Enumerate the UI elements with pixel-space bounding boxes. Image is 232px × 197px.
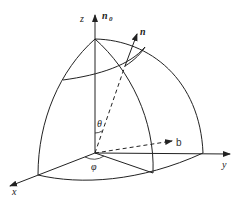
n0-subscript: 0: [109, 15, 113, 23]
theta-label: θ: [97, 118, 102, 129]
phi-label: φ: [91, 161, 97, 172]
n0-label: n: [102, 10, 108, 21]
n-vector: [95, 34, 137, 153]
n-vector-label: n: [140, 26, 146, 37]
y-axis: [95, 153, 230, 154]
phi-angle-arc: [85, 156, 104, 159]
theta-angle-arc: [95, 131, 102, 133]
sphere-octant: [38, 39, 203, 180]
spherical-coordinates-figure: z n 0 n b θ φ y x: [0, 0, 232, 197]
x-axis-label: x: [11, 186, 17, 197]
y-axis-label: y: [221, 159, 227, 170]
b-vector-label: b: [176, 137, 182, 148]
diagram-canvas: z n 0 n b θ φ y x: [0, 0, 232, 197]
b-vector: [95, 141, 172, 153]
x-axis: [10, 153, 95, 186]
z-axis-label: z: [79, 13, 84, 24]
